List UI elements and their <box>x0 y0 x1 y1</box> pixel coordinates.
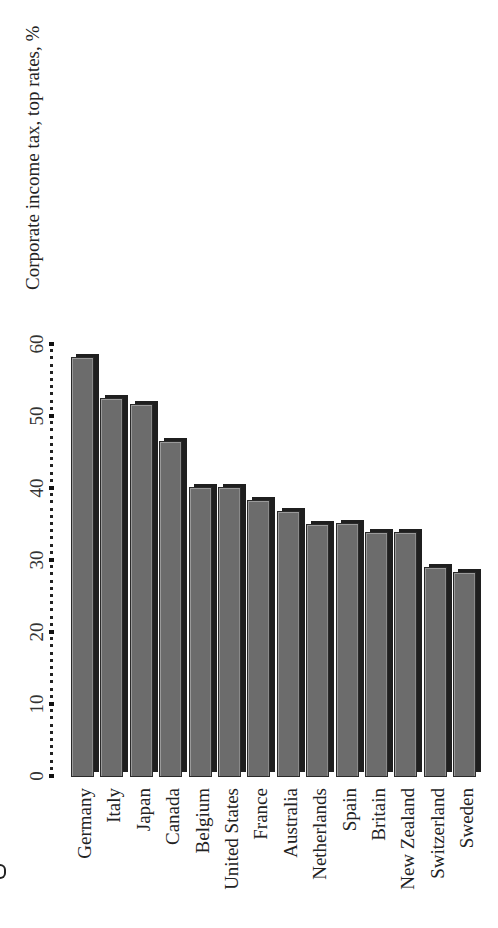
minor-tick <box>50 680 53 683</box>
bar-germany <box>71 357 94 777</box>
y-tick-label: 50 <box>27 401 47 431</box>
minor-tick <box>50 760 53 763</box>
minor-tick <box>50 400 53 403</box>
minor-tick <box>50 724 53 727</box>
minor-tick <box>50 544 53 547</box>
axis-dotted-line <box>50 0 54 928</box>
y-tick-label: 10 <box>27 689 47 719</box>
minor-tick <box>50 364 53 367</box>
minor-tick <box>50 371 53 374</box>
category-label: Australia <box>280 788 302 918</box>
minor-tick <box>50 457 53 460</box>
bar-switzerland <box>424 567 447 777</box>
minor-tick <box>50 637 53 640</box>
major-tick <box>49 486 54 490</box>
y-tick-label: 40 <box>27 473 47 503</box>
major-tick <box>49 630 54 634</box>
minor-tick <box>50 767 53 770</box>
minor-tick <box>50 493 53 496</box>
bar-france <box>247 500 270 777</box>
bar-britain <box>365 532 388 777</box>
category-label: Belgium <box>192 788 214 918</box>
bar-italy <box>100 398 123 777</box>
major-tick <box>49 702 54 706</box>
minor-tick <box>50 608 53 611</box>
bar-canada <box>159 441 182 777</box>
minor-tick <box>50 392 53 395</box>
minor-tick <box>50 601 53 604</box>
bar-spain <box>336 523 359 777</box>
major-tick <box>49 342 54 346</box>
minor-tick <box>50 421 53 424</box>
minor-tick <box>50 464 53 467</box>
category-label: France <box>250 788 272 918</box>
minor-tick <box>50 529 53 532</box>
category-label: Japan <box>133 788 155 918</box>
category-label: Italy <box>103 788 125 918</box>
category-label: Switzerland <box>427 788 449 918</box>
minor-tick <box>50 594 53 597</box>
bar-sweden <box>453 572 476 777</box>
minor-tick <box>50 623 53 626</box>
minor-tick <box>50 709 53 712</box>
minor-tick <box>50 716 53 719</box>
minor-tick <box>50 407 53 410</box>
category-label: New Zealand <box>397 788 419 918</box>
minor-tick <box>50 378 53 381</box>
minor-tick <box>50 659 53 662</box>
minor-tick <box>50 385 53 388</box>
minor-tick <box>50 587 53 590</box>
minor-tick <box>50 745 53 748</box>
bar-netherlands <box>306 524 329 777</box>
minor-tick <box>50 565 53 568</box>
category-label: United States <box>221 788 243 918</box>
minor-tick <box>50 738 53 741</box>
minor-tick <box>50 572 53 575</box>
bar-japan <box>130 404 153 777</box>
category-label: Canada <box>162 788 184 918</box>
bar-new-zealand <box>394 532 417 777</box>
minor-tick <box>50 616 53 619</box>
minor-tick <box>50 479 53 482</box>
minor-tick <box>50 515 53 518</box>
minor-tick <box>50 673 53 676</box>
major-tick <box>49 558 54 562</box>
minor-tick <box>50 522 53 525</box>
bar-belgium <box>189 487 212 777</box>
minor-tick <box>50 551 53 554</box>
category-label: Netherlands <box>309 788 331 918</box>
category-label: Spain <box>339 788 361 918</box>
minor-tick <box>50 731 53 734</box>
y-tick-label: 0 <box>27 761 47 791</box>
minor-tick <box>50 500 53 503</box>
minor-tick <box>50 428 53 431</box>
bar-united-states <box>218 487 241 777</box>
minor-tick <box>50 349 53 352</box>
minor-tick <box>50 580 53 583</box>
category-label: Britain <box>368 788 390 918</box>
y-tick-label: 20 <box>27 617 47 647</box>
minor-tick <box>50 536 53 539</box>
minor-tick <box>50 472 53 475</box>
minor-tick <box>50 443 53 446</box>
minor-tick <box>50 752 53 755</box>
minor-tick <box>50 666 53 669</box>
minor-tick <box>50 450 53 453</box>
minor-tick <box>50 688 53 691</box>
minor-tick <box>50 356 53 359</box>
major-tick <box>49 414 54 418</box>
category-label: Sweden <box>456 788 478 918</box>
minor-tick <box>50 644 53 647</box>
minor-tick <box>50 652 53 655</box>
minor-tick <box>50 695 53 698</box>
minor-tick <box>50 436 53 439</box>
minor-tick <box>50 508 53 511</box>
category-label: Germany <box>74 788 96 918</box>
major-tick <box>49 774 54 778</box>
bar-australia <box>277 511 300 777</box>
y-tick-label: 30 <box>27 545 47 575</box>
y-tick-label: 60 <box>27 329 47 359</box>
